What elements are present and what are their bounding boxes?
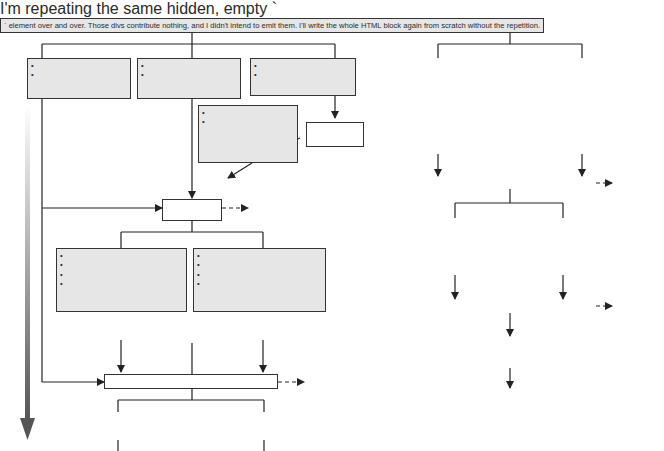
- branch-high-activity: [27, 58, 131, 99]
- branch-any-activity: [137, 58, 241, 99]
- branch-low-activity: [250, 58, 356, 96]
- nsaid-monotherapy-box: [306, 122, 364, 147]
- methotrexate-box-a: [104, 374, 278, 389]
- escalation-arrow-shaft: [25, 105, 30, 420]
- escalation-arrow-head: [20, 418, 35, 440]
- repeat-injection-box: [193, 248, 326, 312]
- initial-injection-box: [56, 248, 187, 312]
- nsaid-followup-box: [198, 105, 298, 163]
- glucocorticoid-injection-box: [162, 199, 222, 221]
